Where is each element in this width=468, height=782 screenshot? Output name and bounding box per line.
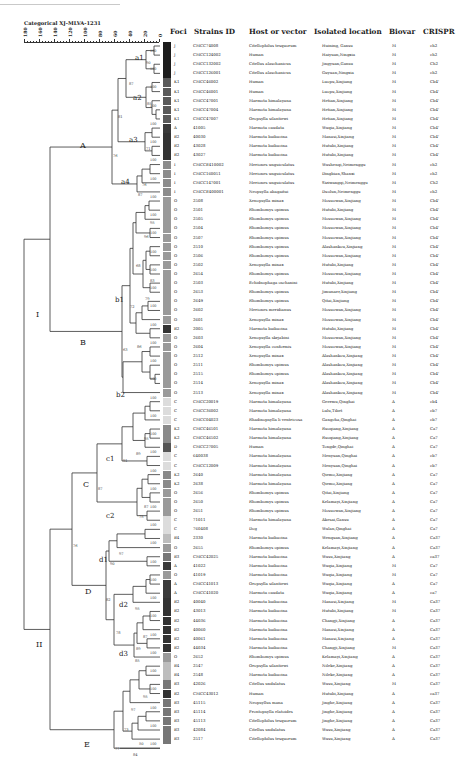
clade-label: II <box>36 640 42 649</box>
clade-label: d1 <box>99 556 108 564</box>
bootstrap-value-terminal: 100 <box>150 469 156 473</box>
bootstrap-value: 97 <box>131 708 136 712</box>
bootstrap-value: 87 <box>143 635 148 639</box>
bootstrap-value-terminal: 100 <box>150 706 156 710</box>
bootstrap-value: 90 <box>146 61 151 65</box>
bootstrap-value: 68 <box>136 264 141 268</box>
bootstrap-value: 82 <box>106 598 111 602</box>
clade-label: I <box>36 310 39 319</box>
bootstrap-value-terminal: 100 <box>150 177 156 181</box>
bootstrap-value: 73 <box>124 728 129 732</box>
bootstrap-value: 87 <box>144 505 149 509</box>
bootstrap-value-terminal: 100 <box>150 195 156 199</box>
bootstrap-value-terminal: 100 <box>150 268 156 272</box>
clade-label: E <box>84 740 90 749</box>
bootstrap-value-terminal: 100 <box>150 560 156 564</box>
bootstrap-value-terminal: 100 <box>150 213 156 217</box>
clade-label: d2 <box>119 601 128 609</box>
foci-code: B3 <box>174 734 179 744</box>
clade-label: a3 <box>129 136 138 144</box>
bootstrap-value-terminal: 100 <box>150 669 156 673</box>
bootstrap-value-terminal: 100 <box>150 341 156 345</box>
bootstrap-value-terminal: 100 <box>150 304 156 308</box>
bootstrap-value: 95 <box>135 607 140 611</box>
bootstrap-value: 72 <box>130 305 135 309</box>
clade-label: A <box>79 141 86 150</box>
bootstrap-value: 95 <box>144 437 149 441</box>
bootstrap-value-terminal: 100 <box>150 67 156 71</box>
bootstrap-value: 90 <box>110 562 115 566</box>
clade-label: C <box>83 480 89 489</box>
clade-label: B <box>80 338 86 347</box>
bootstrap-value-terminal: 100 <box>150 432 156 436</box>
clade-label: b2 <box>116 391 125 399</box>
strain-row: B32517Citellophilus tesquorumWusu,Xinjia… <box>163 734 468 744</box>
bootstrap-value: 77 <box>115 747 120 751</box>
bootstrap-value-terminal: 100 <box>150 104 156 108</box>
bootstrap-value: 71 <box>146 147 151 151</box>
host-or-vector: Citellophilus tesquorum <box>249 734 296 744</box>
bootstrap-value: 96 <box>144 235 149 239</box>
bootstrap-value: 87 <box>129 82 134 86</box>
bootstrap-value-terminal: 100 <box>150 541 156 545</box>
clade-label: a1 <box>135 54 144 62</box>
bootstrap-value-terminal: 100 <box>150 505 156 509</box>
bootstrap-value-terminal: 100 <box>150 158 156 162</box>
bootstrap-value: 75 <box>139 515 144 519</box>
biovar: A <box>392 734 395 744</box>
bootstrap-value: 63 <box>123 348 128 352</box>
bootstrap-value-terminal: 100 <box>150 414 156 418</box>
bootstrap-value: 95 <box>143 695 148 699</box>
clade-label: D <box>85 587 91 596</box>
bootstrap-value-terminal: 100 <box>150 85 156 89</box>
bootstrap-value-terminal: 100 <box>150 687 156 691</box>
strain-id: 2517 <box>193 734 203 744</box>
bootstrap-value-terminal: 100 <box>150 450 156 454</box>
bootstrap-value: 95 <box>150 221 155 225</box>
bootstrap-value: 50 <box>139 742 144 746</box>
bootstrap-value-terminal: 100 <box>150 49 156 53</box>
bootstrap-value: 87 <box>98 487 103 491</box>
clade-label: c1 <box>106 455 114 463</box>
bootstrap-value-terminal: 100 <box>150 359 156 363</box>
bootstrap-value: 87 <box>138 193 143 197</box>
bootstrap-value-terminal: 100 <box>150 724 156 728</box>
clade-label: b1 <box>115 296 124 304</box>
bootstrap-value: 76 <box>113 154 118 158</box>
bootstrap-value-terminal: 100 <box>150 377 156 381</box>
bootstrap-value-terminal: 100 <box>150 396 156 400</box>
bootstrap-value-terminal: 100 <box>150 122 156 126</box>
bootstrap-value: 79 <box>145 297 150 301</box>
bootstrap-value-terminal: 100 <box>150 578 156 582</box>
bootstrap-value: 76 <box>73 544 78 548</box>
crispr-type: Ca37 <box>430 734 440 744</box>
bootstrap-value-terminal: 100 <box>150 651 156 655</box>
clade-label: a4 <box>121 178 130 186</box>
foci-color-swatch <box>163 735 171 744</box>
clade-label: c2 <box>106 512 114 520</box>
bootstrap-value: 85 <box>135 659 140 663</box>
bootstrap-value: 76 <box>142 183 147 187</box>
bootstrap-value-terminal: 100 <box>150 140 156 144</box>
bootstrap-value: 78 <box>116 631 121 635</box>
bootstrap-value: 83 <box>150 279 155 283</box>
clade-label: a2 <box>133 94 142 102</box>
bootstrap-value-terminal: 100 <box>150 633 156 637</box>
bootstrap-value-terminal: 100 <box>150 286 156 290</box>
bootstrap-value: 81 <box>118 115 123 119</box>
bootstrap-value: 97 <box>119 552 124 556</box>
bootstrap-value: 89 <box>136 452 141 456</box>
bootstrap-value: 91 <box>123 459 128 463</box>
bootstrap-value: 84 <box>133 753 138 757</box>
clade-label: d3 <box>119 650 128 658</box>
bootstrap-value-terminal: 100 <box>150 323 156 327</box>
bootstrap-value-terminal: 100 <box>150 614 156 618</box>
bootstrap-value: 89 <box>136 647 141 651</box>
bootstrap-value-terminal: 100 <box>150 487 156 491</box>
bootstrap-value: 86 <box>137 345 142 349</box>
isolated-location: Wusu,Xinjiang <box>322 734 350 744</box>
bootstrap-value-terminal: 100 <box>150 742 156 746</box>
bootstrap-value-terminal: 100 <box>150 231 156 235</box>
bootstrap-value-terminal: 100 <box>150 596 156 600</box>
bootstrap-value-terminal: 100 <box>150 250 156 254</box>
